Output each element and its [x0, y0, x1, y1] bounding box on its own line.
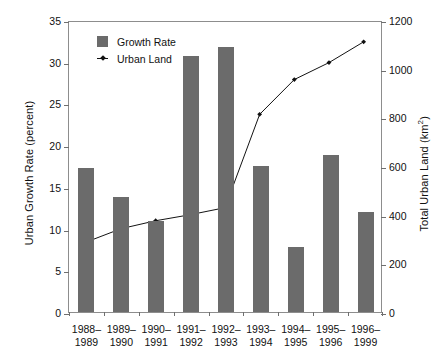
- x-axis-tick-label-line1: 1989–: [104, 323, 139, 336]
- x-axis-tick-label: 1992–1993: [209, 323, 244, 349]
- y-axis-right-tick: [381, 22, 386, 23]
- legend-label-urban-land: Urban Land: [117, 53, 172, 65]
- chart-legend: Growth Rate Urban Land: [97, 33, 176, 67]
- x-axis-tick-label-line1: 1992–: [209, 323, 244, 336]
- y-axis-right-title-tail: ): [418, 116, 430, 120]
- bar-growth-rate: [113, 197, 129, 312]
- x-axis-tick: [209, 312, 210, 316]
- y-axis-left-tick: [64, 105, 69, 106]
- y-axis-right-tick: [381, 217, 386, 218]
- y-axis-right-title-text: Total Urban Land (km: [418, 124, 430, 231]
- y-axis-left-tick-label: 30: [49, 57, 61, 69]
- legend-line-diamond-icon: [97, 53, 108, 64]
- x-axis-tick-label: 1996–1999: [348, 323, 383, 349]
- y-axis-right-tick: [381, 168, 386, 169]
- y-axis-right-tick-label: 1200: [389, 15, 412, 27]
- x-axis-tick-label-line1: 1991–: [174, 323, 209, 336]
- y-axis-right-tick-label: 200: [389, 258, 407, 270]
- y-axis-left-tick-label: 20: [49, 140, 61, 152]
- y-axis-left-title: Urban Growth Rate (percent): [23, 53, 35, 293]
- bar-growth-rate: [148, 221, 164, 312]
- urban-land-data-point-marker: [327, 60, 332, 65]
- y-axis-left-tick-label: 35: [49, 15, 61, 27]
- x-axis-tick-label-line2: 1989: [69, 336, 104, 349]
- x-axis-tick: [348, 312, 349, 316]
- bar-growth-rate: [288, 247, 304, 312]
- x-axis-tick-label-line1: 1995–: [313, 323, 348, 336]
- x-axis-tick-label: 1990–1991: [139, 323, 174, 349]
- y-axis-left-tick-label: 5: [55, 265, 61, 277]
- x-axis-tick-label-line1: 1988–: [69, 323, 104, 336]
- x-axis-tick-label-line1: 1990–: [139, 323, 174, 336]
- y-axis-left-tick: [64, 147, 69, 148]
- y-axis-right-tick-label: 0: [389, 307, 395, 319]
- x-axis-tick: [104, 312, 105, 316]
- y-axis-right-title-superscript: 2: [416, 120, 425, 125]
- y-axis-right-title: Total Urban Land (km2): [416, 54, 430, 294]
- x-axis-tick-label: 1988–1989: [69, 323, 104, 349]
- legend-entry-urban-land: Urban Land: [97, 50, 176, 67]
- x-axis-tick-label: 1991–1992: [174, 323, 209, 349]
- bar-growth-rate: [253, 166, 269, 312]
- y-axis-right-tick: [381, 71, 386, 72]
- y-axis-right-tick: [381, 265, 386, 266]
- y-axis-left-tick-label: 25: [49, 98, 61, 110]
- y-axis-left-tick: [64, 64, 69, 65]
- y-axis-left-tick-label: 15: [49, 182, 61, 194]
- y-axis-right-tick-label: 400: [389, 210, 407, 222]
- x-axis-tick-label: 1995–1996: [313, 323, 348, 349]
- y-axis-right-tick-label: 800: [389, 112, 407, 124]
- x-axis-tick: [278, 312, 279, 316]
- x-axis-tick-label-line1: 1996–: [348, 323, 383, 336]
- x-axis-tick: [174, 312, 175, 316]
- x-axis-tick-label-line2: 1992: [174, 336, 209, 349]
- chart-figure: Urban Growth Rate (percent) Total Urban …: [0, 0, 447, 360]
- x-axis-tick: [139, 312, 140, 316]
- x-axis-tick: [69, 312, 70, 316]
- y-axis-right-tick: [381, 119, 386, 120]
- plot-area: Growth Rate Urban Land 05101520253035020…: [68, 21, 382, 313]
- x-axis-tick-label-line2: 1990: [104, 336, 139, 349]
- y-axis-right-tick-label: 600: [389, 161, 407, 173]
- bar-growth-rate: [358, 212, 374, 312]
- y-axis-left-tick: [64, 272, 69, 273]
- bar-growth-rate: [218, 47, 234, 312]
- y-axis-left-tick: [64, 189, 69, 190]
- bar-growth-rate: [183, 56, 199, 312]
- x-axis-tick-label-line1: 1993–: [243, 323, 278, 336]
- x-axis-tick-label-line2: 1995: [278, 336, 313, 349]
- legend-label-growth-rate: Growth Rate: [117, 36, 176, 48]
- bar-growth-rate: [78, 168, 94, 312]
- x-axis-tick-label: 1989–1990: [104, 323, 139, 349]
- y-axis-left-tick: [64, 22, 69, 23]
- x-axis-tick-label-line2: 1991: [139, 336, 174, 349]
- x-axis-tick-label-line2: 1994: [243, 336, 278, 349]
- x-axis-tick-label-line2: 1996: [313, 336, 348, 349]
- y-axis-left-tick-label: 0: [55, 307, 61, 319]
- x-axis-tick-label-line2: 1999: [348, 336, 383, 349]
- x-axis-tick-label-line1: 1994–: [278, 323, 313, 336]
- x-axis-tick: [243, 312, 244, 316]
- y-axis-left-tick-label: 10: [49, 224, 61, 236]
- x-axis-tick-label: 1993–1994: [243, 323, 278, 349]
- y-axis-left-tick: [64, 231, 69, 232]
- x-axis-tick-label: 1994–1995: [278, 323, 313, 349]
- x-axis-tick: [313, 312, 314, 316]
- bar-growth-rate: [323, 155, 339, 312]
- urban-land-data-point-marker: [361, 39, 366, 44]
- x-axis-tick: [382, 312, 383, 316]
- legend-entry-growth-rate: Growth Rate: [97, 33, 176, 50]
- legend-swatch-square-icon: [97, 36, 108, 47]
- x-axis-tick-label-line2: 1993: [209, 336, 244, 349]
- y-axis-right-tick-label: 1000: [389, 64, 412, 76]
